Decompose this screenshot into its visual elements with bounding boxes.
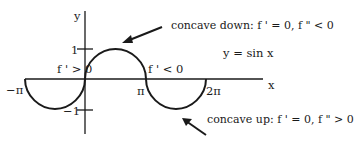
arrow-concave-down bbox=[127, 27, 162, 41]
x-tick-label-neg-pi: −π bbox=[6, 85, 23, 97]
x-tick-label-pi: π bbox=[137, 86, 145, 98]
y-axis-label: y bbox=[74, 11, 81, 23]
y-tick-label-1: 1 bbox=[71, 45, 78, 57]
y-tick-label-neg1: −1 bbox=[63, 106, 80, 118]
arrow-concave-up bbox=[186, 121, 206, 135]
x-tick-label-2pi: 2π bbox=[206, 86, 221, 98]
x-axis-label: x bbox=[268, 80, 275, 92]
annotation-concave-down: concave down: f ' = 0, f " < 0 bbox=[171, 20, 334, 31]
slope-label-positive: f ' > 0 bbox=[57, 64, 92, 76]
function-label: y = sin x bbox=[223, 48, 274, 60]
slope-label-negative: f ' < 0 bbox=[148, 64, 183, 76]
annotation-concave-up: concave up: f ' = 0, f " > 0 bbox=[207, 114, 354, 125]
arrowhead-concave-down bbox=[122, 35, 133, 43]
